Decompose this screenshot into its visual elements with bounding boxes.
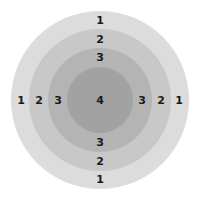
- label-right-1: 1: [175, 94, 183, 107]
- label-top-2: 2: [96, 33, 104, 46]
- concentric-rings-diagram: 1 2 3 3 2 1 1 2 3 3 2 1 4: [0, 0, 201, 200]
- label-bottom-3: 3: [96, 136, 104, 149]
- label-bottom-2: 2: [96, 155, 104, 168]
- label-right-3: 3: [138, 94, 146, 107]
- label-left-3: 3: [54, 94, 62, 107]
- label-right-2: 2: [157, 94, 165, 107]
- label-left-2: 2: [35, 94, 43, 107]
- label-bottom-1: 1: [96, 173, 104, 186]
- label-top-3: 3: [96, 51, 104, 64]
- label-center-4: 4: [96, 94, 104, 107]
- label-left-1: 1: [17, 94, 25, 107]
- label-top-1: 1: [96, 14, 104, 27]
